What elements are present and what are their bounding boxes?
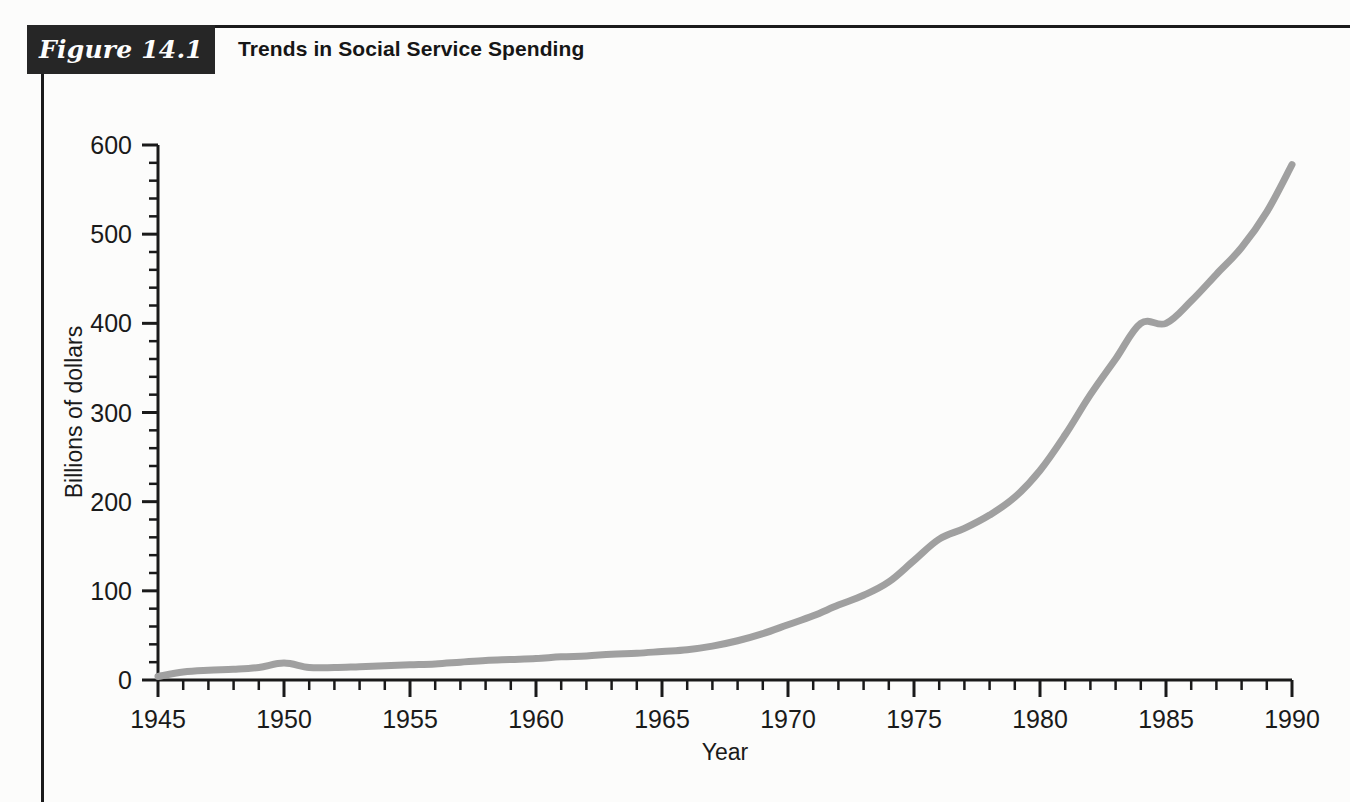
x-axis: 1945195019551960196519701975198019851990… [130, 680, 1320, 765]
x-tick-label: 1980 [1012, 705, 1068, 733]
x-tick-label: 1970 [760, 705, 816, 733]
header-divider-rule [196, 25, 1350, 28]
figure-number-label: Figure 14.1 [39, 35, 203, 64]
line-chart: 0100200300400500600 Billions of dollars … [0, 0, 1350, 802]
x-tick-label: 1945 [130, 705, 186, 733]
data-series-line [158, 165, 1292, 677]
x-tick-label: 1985 [1138, 705, 1194, 733]
left-margin-rule [41, 74, 44, 802]
figure-title: Trends in Social Service Spending [238, 37, 584, 61]
y-tick-label: 100 [90, 577, 132, 605]
x-tick-label: 1960 [508, 705, 564, 733]
x-axis-title: Year [702, 739, 749, 765]
x-tick-label: 1990 [1264, 705, 1320, 733]
y-tick-label: 500 [90, 220, 132, 248]
x-tick-label: 1975 [886, 705, 942, 733]
y-tick-label: 200 [90, 488, 132, 516]
figure-number-badge: Figure 14.1 [27, 25, 215, 74]
y-axis: 0100200300400500600 Billions of dollars [61, 131, 158, 694]
x-tick-label: 1965 [634, 705, 690, 733]
figure-page: Figure 14.1 Trends in Social Service Spe… [0, 0, 1350, 802]
y-tick-label: 400 [90, 309, 132, 337]
x-axis-major-ticks [158, 680, 1292, 697]
x-axis-tick-labels: 1945195019551960196519701975198019851990 [130, 705, 1320, 733]
y-axis-tick-labels: 0100200300400500600 [90, 131, 132, 694]
y-tick-label: 0 [118, 666, 132, 694]
x-axis-minor-ticks [183, 680, 1267, 690]
x-tick-label: 1955 [382, 705, 438, 733]
y-tick-label: 300 [90, 399, 132, 427]
y-axis-major-ticks [142, 145, 158, 680]
data-series-group [158, 165, 1292, 677]
y-tick-label: 600 [90, 131, 132, 159]
x-tick-label: 1950 [256, 705, 312, 733]
y-axis-minor-ticks [149, 163, 158, 662]
y-axis-title: Billions of dollars [61, 326, 87, 499]
